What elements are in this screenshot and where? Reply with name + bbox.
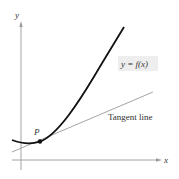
tangent-label: Tangent line	[108, 112, 153, 122]
x-axis-label: x	[163, 155, 168, 165]
y-axis-label: y	[14, 10, 19, 20]
point-label: P	[33, 127, 40, 137]
tangent-line-diagram: y x y = f(x) Tangent line P	[0, 0, 179, 179]
point-p	[38, 139, 42, 143]
curve-f	[12, 27, 124, 143]
x-axis-arrow-icon	[156, 158, 162, 161]
curve-label: y = f(x)	[120, 59, 148, 69]
y-axis-arrow-icon	[19, 21, 22, 27]
